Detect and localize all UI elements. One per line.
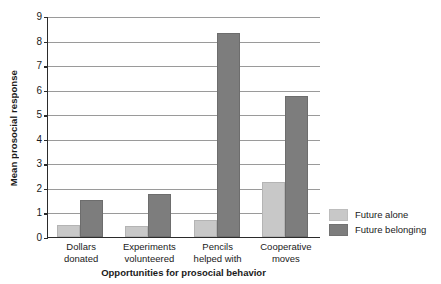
chart-legend: Future aloneFuture belonging bbox=[329, 207, 437, 237]
y-axis-tick-label: 5 bbox=[24, 110, 42, 120]
bar-group bbox=[116, 17, 184, 237]
bar bbox=[125, 226, 148, 237]
y-axis-tick-label: 9 bbox=[24, 12, 42, 22]
legend-color-swatch bbox=[329, 209, 348, 221]
bar-chart-figure: Mean prosocial response 0123456789 Dolla… bbox=[0, 0, 441, 284]
y-axis-tick-label: 6 bbox=[24, 86, 42, 96]
y-axis-tick-label: 8 bbox=[24, 37, 42, 47]
bar-group bbox=[253, 17, 321, 237]
y-axis-tick-label: 4 bbox=[24, 135, 42, 145]
legend-entry: Future belonging bbox=[329, 222, 437, 237]
x-axis-tick-labels: DollarsdonatedExperimentsvolunteeredPenc… bbox=[47, 241, 320, 269]
y-axis-tick-labels: 0123456789 bbox=[24, 10, 42, 246]
bar bbox=[217, 33, 240, 237]
x-axis-tick-label-line: Cooperative bbox=[240, 241, 332, 253]
bar bbox=[194, 220, 217, 237]
bar-group bbox=[48, 17, 116, 237]
bar bbox=[57, 225, 80, 237]
y-axis-tick-label: 1 bbox=[24, 208, 42, 218]
y-axis-title: Mean prosocial response bbox=[6, 28, 20, 228]
bar bbox=[262, 182, 285, 237]
y-axis-tick-label: 2 bbox=[24, 184, 42, 194]
bar bbox=[80, 200, 103, 237]
bar-group bbox=[185, 17, 253, 237]
y-axis-tick-label: 3 bbox=[24, 159, 42, 169]
y-axis-tick-label: 7 bbox=[24, 61, 42, 71]
legend-label: Future alone bbox=[355, 209, 408, 220]
x-axis-tick-label: Cooperativemoves bbox=[240, 241, 332, 264]
y-axis-title-text: Mean prosocial response bbox=[8, 70, 19, 186]
bar bbox=[148, 194, 171, 237]
legend-label: Future belonging bbox=[355, 224, 426, 235]
legend-color-swatch bbox=[329, 224, 348, 236]
plot-area bbox=[47, 17, 320, 238]
x-axis-title: Opportunities for prosocial behavior bbox=[47, 267, 320, 278]
x-axis-tick-label-line: moves bbox=[240, 253, 332, 265]
y-axis-tick-mark bbox=[44, 238, 48, 239]
bars-layer bbox=[48, 17, 320, 237]
bar bbox=[285, 96, 308, 237]
legend-entry: Future alone bbox=[329, 207, 437, 222]
